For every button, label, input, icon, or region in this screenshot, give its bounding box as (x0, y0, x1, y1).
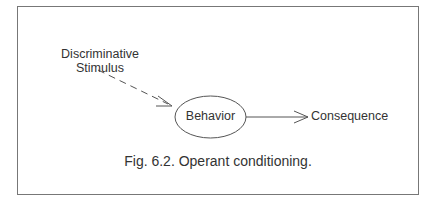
behavior-label: Behavior (175, 109, 246, 123)
stimulus-line1: Discriminative (44, 47, 156, 61)
discriminative-stimulus-label: Discriminative Stimulus (44, 47, 156, 75)
stimulus-line2: Stimulus (44, 61, 156, 75)
consequence-label: Consequence (311, 109, 388, 123)
diagram-graphics (0, 0, 436, 213)
dashed-arrowhead-icon (156, 96, 172, 106)
figure-caption: Fig. 6.2. Operant conditioning. (0, 153, 436, 169)
dashed-arrow-line (98, 70, 168, 104)
